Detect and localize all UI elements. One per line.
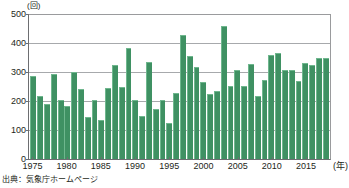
bar[interactable] <box>275 53 281 159</box>
bar[interactable] <box>187 56 193 159</box>
bar[interactable] <box>85 117 91 159</box>
bar-slot <box>220 14 227 159</box>
bar-slot <box>152 14 159 159</box>
bar[interactable] <box>153 109 159 159</box>
bar[interactable] <box>214 91 220 159</box>
bar[interactable] <box>228 86 234 159</box>
x-axis-tick-label: 2000 <box>193 161 213 172</box>
bar-slot <box>254 14 261 159</box>
bar-slot <box>50 14 57 159</box>
bar[interactable] <box>71 72 77 159</box>
bar[interactable] <box>51 74 57 159</box>
bar-slot <box>30 14 37 159</box>
bar-slot <box>261 14 268 159</box>
y-axis-tick-mark <box>26 101 29 102</box>
bar[interactable] <box>194 67 200 159</box>
bar[interactable] <box>98 120 104 159</box>
bar[interactable] <box>302 63 308 159</box>
bar-slot <box>98 14 105 159</box>
x-axis-tick-label: 2015 <box>296 161 316 172</box>
x-axis-tick-mark <box>203 157 204 160</box>
y-axis-tick-label: 500 <box>11 10 26 19</box>
bar-slot <box>125 14 132 159</box>
bar[interactable] <box>126 48 132 159</box>
bar-slot <box>118 14 125 159</box>
bar-slot <box>84 14 91 159</box>
plot-area: 0100200300400500 <box>28 14 331 160</box>
bar[interactable] <box>44 104 50 159</box>
bar-slot <box>288 14 295 159</box>
bar[interactable] <box>92 100 98 159</box>
bar[interactable] <box>207 94 213 159</box>
x-axis-tick-label: 1995 <box>159 161 179 172</box>
bar[interactable] <box>166 123 172 159</box>
bar[interactable] <box>296 81 302 159</box>
bar-slot <box>91 14 98 159</box>
bar-slot <box>180 14 187 159</box>
bar[interactable] <box>139 116 145 159</box>
bar[interactable] <box>316 58 322 159</box>
bar-slot <box>214 14 221 159</box>
bar-slot <box>200 14 207 159</box>
bar[interactable] <box>241 86 247 159</box>
x-axis-tick-label: 1980 <box>57 161 77 172</box>
bar[interactable] <box>105 88 111 159</box>
bar[interactable] <box>64 106 70 159</box>
bar-slot <box>309 14 316 159</box>
bar-slot <box>241 14 248 159</box>
x-axis-tick-label: 2005 <box>228 161 248 172</box>
x-axis-tick-mark <box>169 157 170 160</box>
bar-slot <box>207 14 214 159</box>
bar[interactable] <box>268 55 274 159</box>
y-axis-tick-mark <box>26 130 29 131</box>
bar[interactable] <box>282 70 288 159</box>
bar-slot <box>112 14 119 159</box>
bar-slot <box>64 14 71 159</box>
bar-slot <box>78 14 85 159</box>
bar-slot <box>248 14 255 159</box>
x-axis-tick-label: 1975 <box>22 161 42 172</box>
x-axis-tick-label: 1985 <box>91 161 111 172</box>
bar[interactable] <box>160 100 166 159</box>
bar-slot <box>268 14 275 159</box>
bar[interactable] <box>200 82 206 159</box>
plot-inner <box>29 14 330 159</box>
bar[interactable] <box>30 76 36 159</box>
bar-slot <box>139 14 146 159</box>
bar-slot <box>146 14 153 159</box>
y-axis-tick-mark <box>26 43 29 44</box>
y-axis-tick-mark <box>26 159 29 160</box>
bar[interactable] <box>78 89 84 159</box>
bar[interactable] <box>58 100 64 159</box>
bar[interactable] <box>146 62 152 159</box>
bar[interactable] <box>262 80 268 159</box>
bar-slot <box>71 14 78 159</box>
bar[interactable] <box>289 70 295 159</box>
x-axis-tick-mark <box>135 157 136 160</box>
bar[interactable] <box>234 70 240 159</box>
x-axis-tick-mark <box>238 157 239 160</box>
bar[interactable] <box>132 100 138 159</box>
x-axis-tick-mark <box>272 157 273 160</box>
bar[interactable] <box>173 93 179 159</box>
source-note: 出典：気象庁ホームページ <box>2 175 98 185</box>
bar[interactable] <box>221 26 227 159</box>
bar[interactable] <box>180 35 186 159</box>
bar[interactable] <box>119 87 125 159</box>
bar[interactable] <box>37 96 43 160</box>
bar-slot <box>275 14 282 159</box>
bar-slot <box>193 14 200 159</box>
bar-slot <box>302 14 309 159</box>
bar[interactable] <box>255 96 261 160</box>
bar-slot <box>132 14 139 159</box>
bar[interactable] <box>323 58 329 159</box>
bar-slot <box>57 14 64 159</box>
bar-slot <box>234 14 241 159</box>
bar-slot <box>44 14 51 159</box>
bar[interactable] <box>309 65 315 159</box>
y-axis-tick-label: 300 <box>11 68 26 77</box>
bar[interactable] <box>112 65 118 159</box>
bar-slot <box>315 14 322 159</box>
bar-slot <box>186 14 193 159</box>
bar[interactable] <box>248 64 254 159</box>
